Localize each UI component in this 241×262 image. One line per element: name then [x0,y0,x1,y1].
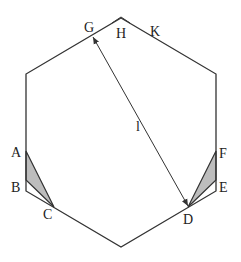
length-arrow-l [93,37,188,206]
label-l: l [136,119,140,134]
label-e: E [219,180,228,195]
label-k: K [150,24,160,39]
label-f: F [219,146,227,161]
label-h: H [116,26,126,41]
label-c: C [43,207,52,222]
hexagon-diagram: G H K l A B C D E F [0,0,241,262]
label-g: G [84,20,94,35]
label-d: D [183,212,193,227]
label-b: B [11,180,20,195]
label-a: A [11,145,22,160]
